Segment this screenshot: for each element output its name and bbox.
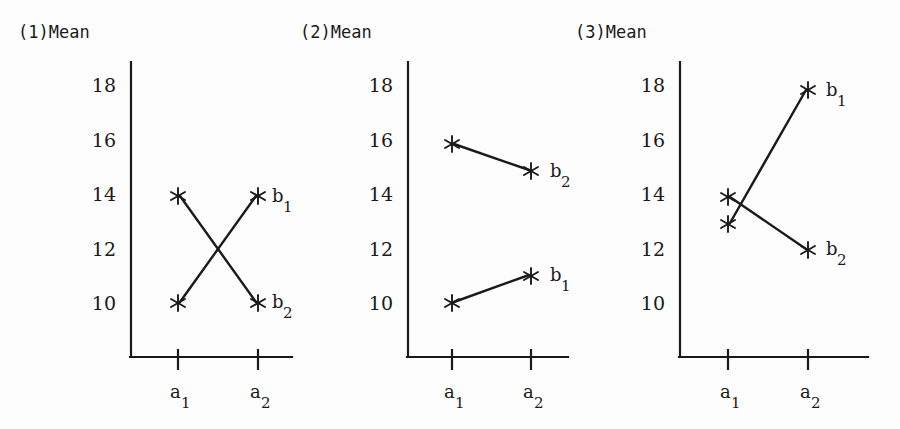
panel-3-ytick-10: 10 (641, 292, 665, 314)
panel-1-series-b2-label: b (272, 291, 284, 312)
panel-3-xtick-a2-label: a (800, 381, 811, 402)
panel-2-x-ticks (452, 349, 531, 370)
panel-3-ytick-16: 16 (641, 129, 665, 151)
panel-3-series-b2-label-subscript: 2 (837, 251, 847, 269)
panel-2-y-tick-labels: 18 16 14 12 10 (369, 74, 393, 314)
panel-2-series-b1-label: b (550, 264, 562, 285)
panel-1-series-b2: b 2 (171, 188, 293, 322)
panel-3-x-ticks (728, 349, 808, 370)
panel-1-title: (1)Mean (18, 22, 90, 42)
panel-1-x-tick-labels: a 1 a 2 (170, 381, 271, 412)
panel-3-ytick-12: 12 (641, 238, 665, 260)
panel-1-xtick-a1-label: a (170, 381, 181, 402)
panel-1-series-b2-label-subscript: 2 (283, 304, 293, 322)
panel-1-series-b1-label-subscript: 1 (283, 198, 293, 216)
panel-3-series-b2-marker-a2 (801, 242, 815, 258)
panel-2-series-b1-line (454, 275, 529, 302)
interaction-plots-figure: (1)Mean 18 16 14 12 10 a 1 a 2 (0, 0, 900, 429)
panel-2-series-b2-marker-a2 (524, 163, 538, 179)
panel-1-ytick-16: 16 (92, 129, 116, 151)
panel-1-ytick-10: 10 (92, 292, 116, 314)
panel-3-series-b2-marker-a1 (721, 189, 735, 205)
panel-3-ytick-18: 18 (641, 74, 665, 96)
panel-1-y-tick-labels: 18 16 14 12 10 (92, 74, 116, 314)
panel-1-series-b1-label: b (272, 185, 284, 206)
panel-3-xtick-a1-subscript: 1 (731, 394, 741, 412)
panel-3-series-b1-line (730, 90, 806, 223)
panel-3-ytick-14: 14 (641, 183, 665, 205)
panel-3-series-b2-label: b (826, 238, 838, 259)
panel-2: (2)Mean 18 16 14 12 10 a 1 a 2 (300, 22, 571, 412)
panel-2-series-b2-label-subscript: 2 (561, 173, 571, 191)
panel-1-x-ticks (178, 349, 258, 370)
panel-3-series-b2: b 2 (721, 189, 847, 269)
panel-3-y-tick-labels: 18 16 14 12 10 (641, 74, 665, 314)
panel-1-ytick-14: 14 (92, 183, 116, 205)
panel-2-series-b2-label: b (550, 160, 562, 181)
panel-2-series-b2-line (454, 144, 529, 170)
panel-2-title: (2)Mean (300, 22, 372, 42)
panel-3-xtick-a2-subscript: 2 (811, 394, 821, 412)
panel-2-ytick-10: 10 (369, 292, 393, 314)
panel-3-series-b2-line (730, 197, 806, 249)
panel-2-xtick-a1-label: a (444, 381, 455, 402)
panel-1: (1)Mean 18 16 14 12 10 a 1 a 2 (18, 22, 293, 412)
panel-1-xtick-a1-subscript: 1 (181, 394, 191, 412)
panel-2-y-axis (407, 62, 568, 357)
panel-1-ytick-18: 18 (92, 74, 116, 96)
panel-2-series-b2: b 2 (445, 136, 571, 191)
panel-2-series-b1-label-subscript: 1 (561, 277, 571, 295)
panel-2-ytick-12: 12 (369, 238, 393, 260)
panel-3-x-tick-labels: a 1 a 2 (720, 381, 821, 412)
panel-2-xtick-a1-subscript: 1 (455, 394, 465, 412)
panel-2-xtick-a2-subscript: 2 (534, 394, 544, 412)
panel-1-xtick-a2-label: a (250, 381, 261, 402)
panel-3: (3)Mean 18 16 14 12 10 a 1 a 2 (575, 22, 868, 412)
panel-3-xtick-a1-label: a (720, 381, 731, 402)
panel-2-ytick-14: 14 (369, 183, 393, 205)
panel-2-ytick-18: 18 (369, 74, 393, 96)
panel-2-x-tick-labels: a 1 a 2 (444, 381, 544, 412)
panel-3-series-b1: b 1 (721, 79, 847, 232)
panel-3-series-b1-label-subscript: 1 (837, 92, 847, 110)
panel-2-xtick-a2-label: a (523, 381, 534, 402)
panel-1-xtick-a2-subscript: 2 (261, 394, 271, 412)
panel-2-series-b1-marker-a1 (445, 295, 459, 311)
panel-2-ytick-16: 16 (369, 129, 393, 151)
panel-3-title: (3)Mean (575, 22, 647, 42)
panel-2-series-b1: b 1 (445, 264, 571, 311)
panel-1-ytick-12: 12 (92, 238, 116, 260)
panel-1-y-axis (130, 62, 292, 357)
panel-3-series-b1-label: b (826, 79, 838, 100)
